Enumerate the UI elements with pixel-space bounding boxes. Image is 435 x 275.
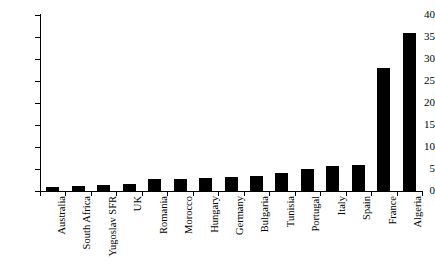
x-category-label: Morocco — [184, 196, 195, 234]
bar — [148, 179, 161, 191]
x-category-label: Yugoslav SFR — [108, 196, 119, 256]
bar — [377, 68, 390, 191]
bar-chart: 0510152025303540 AustraliaSouth AfricaYu… — [0, 0, 435, 275]
x-category-label: Romania — [159, 196, 170, 234]
bar — [97, 185, 110, 191]
x-category-label: Spain — [362, 196, 373, 220]
bar — [72, 186, 85, 191]
x-category-label: Germany — [235, 196, 246, 235]
x-category-label: Portugal — [311, 196, 322, 232]
bars-layer — [40, 15, 422, 191]
bar — [275, 173, 288, 191]
x-axis-line — [40, 191, 422, 192]
x-tick-mark — [40, 191, 41, 196]
x-category-label: Australia — [57, 196, 68, 235]
x-category-label: France — [388, 196, 399, 225]
bar — [352, 165, 365, 191]
bar — [225, 177, 238, 191]
x-category-label: Italy — [337, 196, 348, 215]
bar — [123, 184, 136, 191]
bar — [403, 33, 416, 191]
bar — [301, 169, 314, 191]
x-category-label: South Africa — [82, 196, 93, 249]
bar — [326, 166, 339, 191]
bar — [250, 176, 263, 191]
x-category-label: Tunisia — [286, 196, 297, 227]
x-category-label: Bulgaria — [260, 196, 271, 232]
x-category-label: Hungary — [210, 196, 221, 233]
bar — [174, 179, 187, 191]
bar — [46, 187, 59, 191]
x-category-label: Algeria — [413, 196, 424, 228]
x-category-label: UK — [133, 196, 144, 211]
bar — [199, 178, 212, 191]
